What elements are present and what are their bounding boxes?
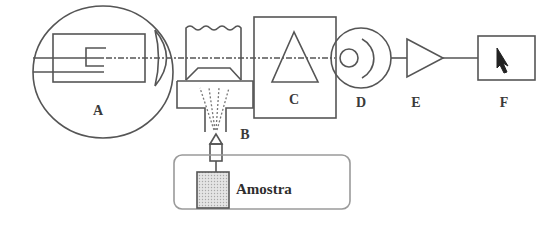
label-d: D [356, 95, 366, 111]
sample-beaker [197, 172, 229, 208]
amplifier-component-e [407, 39, 443, 77]
sample-label: Amostra [236, 181, 292, 198]
label-b: B [240, 127, 249, 143]
pointer-icon [497, 48, 508, 73]
label-c: C [289, 92, 299, 108]
readout-component-f [478, 36, 535, 80]
detector-component-d [331, 28, 391, 88]
burner-component-b [177, 26, 253, 132]
label-f: F [500, 95, 509, 111]
label-a: A [93, 103, 103, 119]
label-e: E [411, 95, 420, 111]
